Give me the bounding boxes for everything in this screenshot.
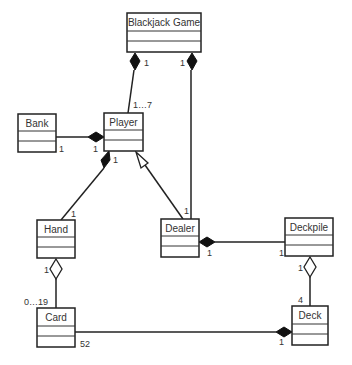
class-name: Player [109,117,138,128]
class-name: Deckpile [290,222,329,233]
mult-dealer-deckpile-whole: 1 [207,248,212,258]
mult-game-dealer-whole: 1 [180,58,185,68]
class-name: Dealer [165,223,195,234]
class-name: Bank [26,118,50,129]
mult-deckpile-deck-part: 4 [298,295,303,305]
mult-deck-card-part: 52 [80,339,90,349]
class-name: Blackjack Game [128,17,201,28]
aggregation-diamond-deckpile-deck [304,257,316,277]
aggregation-diamond-hand-card [50,259,62,279]
uml-class-diagram: Blackjack Game Bank Player Hand Dealer D… [0,0,352,365]
mult-deck-card-whole: 1 [279,337,284,347]
mult-game-dealer-part: 1 [184,206,189,216]
class-deck[interactable]: Deck [292,306,328,345]
class-blackjack-game[interactable]: Blackjack Game [127,13,201,52]
class-dealer[interactable]: Dealer [161,219,199,257]
class-deckpile[interactable]: Deckpile [285,218,333,256]
class-bank[interactable]: Bank [18,114,56,152]
mult-dealer-deckpile-part: 1 [279,248,284,258]
mult-game-player-part: 1…7 [133,100,152,110]
mult-hand-card-whole: 1 [44,265,49,275]
composition-diamond-game-dealer [187,53,197,70]
mult-player-hand-whole: 1 [113,155,118,165]
class-hand[interactable]: Hand [37,220,75,258]
class-card[interactable]: Card [37,308,75,347]
class-name: Card [45,312,67,323]
edge-dealer-player-generalization [145,165,183,219]
class-name: Deck [299,310,323,321]
class-name: Hand [44,224,68,235]
mult-deckpile-deck-whole: 1 [298,263,303,273]
mult-hand-card-part: 0…19 [24,297,48,307]
composition-diamond-game-player [130,53,140,70]
class-player[interactable]: Player [104,113,143,151]
composition-diamond-player-hand [101,151,110,168]
mult-player-hand-part: 1 [71,209,76,219]
composition-diamond-deck-card [276,327,292,337]
composition-diamond-dealer-deckpile [199,237,215,247]
composition-diamond-player-bank [88,132,104,142]
mult-game-player-whole: 1 [144,58,149,68]
mult-player-bank-whole: 1 [93,144,98,154]
mult-bank: 1 [59,144,64,154]
edge-player-hand [61,168,104,220]
